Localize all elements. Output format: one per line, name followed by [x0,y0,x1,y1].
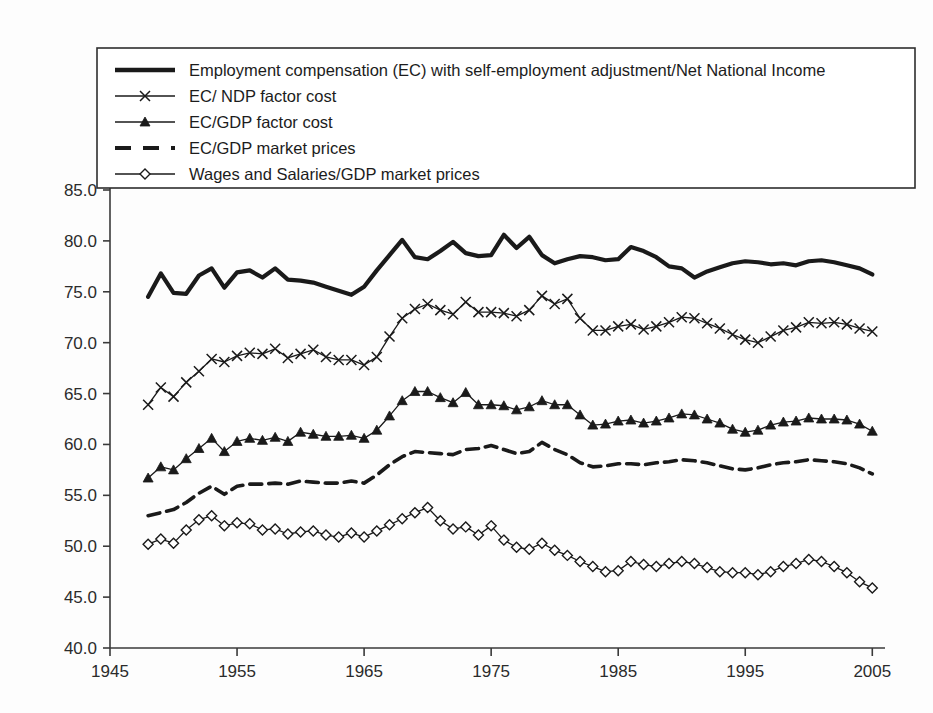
marker-triangle [194,444,204,453]
legend-entry-label: Employment compensation (EC) with self-e… [189,61,825,79]
series-line [148,442,872,515]
marker-x [651,321,661,331]
marker-diamond [283,529,293,539]
marker-diamond [308,526,318,536]
marker-diamond [473,530,483,540]
marker-x [143,400,153,410]
marker-diamond [702,563,712,573]
marker-x [639,324,649,334]
marker-diamond [651,562,661,572]
marker-diamond [766,567,776,577]
marker-x [575,313,585,323]
marker-triangle [753,425,763,434]
marker-x [550,299,560,309]
marker-diamond [867,583,877,593]
marker-diamond [461,522,471,532]
series-2 [143,387,877,483]
marker-triangle [207,433,217,442]
marker-x [169,392,179,402]
marker-x [270,344,280,354]
marker-diamond [346,528,356,538]
y-axis: 40.045.050.055.060.065.070.075.080.085.0 [64,181,110,658]
marker-diamond [626,556,636,566]
series-line [148,296,872,405]
series-0 [148,235,872,297]
marker-diamond [397,514,407,524]
marker-triangle [397,396,407,405]
marker-x [410,304,420,314]
x-tick-label: 1995 [726,662,764,681]
marker-triangle [346,430,356,439]
marker-x [296,349,306,359]
marker-diamond [842,568,852,578]
marker-x [181,377,191,387]
x-tick-label: 2005 [853,662,891,681]
marker-diamond [156,534,166,544]
marker-diamond [791,559,801,569]
marker-x [715,323,725,333]
marker-x [321,352,331,362]
marker-triangle [677,409,687,418]
marker-diamond [753,570,763,580]
marker-diamond [728,568,738,578]
y-tick-label: 65.0 [64,385,97,404]
marker-diamond [524,544,534,554]
x-tick-label: 1955 [218,662,256,681]
marker-diamond [804,554,814,564]
marker-triangle [448,398,458,407]
y-tick-label: 70.0 [64,334,97,353]
marker-diamond [385,520,395,530]
y-tick-label: 85.0 [64,181,97,200]
marker-x [448,309,458,319]
marker-diamond [715,567,725,577]
marker-x [664,317,674,327]
marker-diamond [689,559,699,569]
marker-triangle [181,454,191,463]
marker-x [435,305,445,315]
marker-diamond [448,524,458,534]
marker-diamond [855,577,865,587]
marker-x [359,360,369,370]
x-tick-label: 1945 [91,662,129,681]
marker-diamond [816,556,826,566]
marker-triangle [804,413,814,422]
y-tick-label: 40.0 [64,639,97,658]
marker-triangle [270,432,280,441]
y-tick-label: 75.0 [64,283,97,302]
marker-diamond [639,560,649,570]
marker-triangle [245,433,255,442]
y-tick-label: 60.0 [64,435,97,454]
data-series-group [143,235,877,593]
marker-x [372,352,382,362]
marker-diamond [245,519,255,529]
y-tick-label: 55.0 [64,486,97,505]
marker-x [512,311,522,321]
marker-triangle [435,393,445,402]
marker-x [791,322,801,332]
marker-diamond [613,566,623,576]
x-axis: 1945195519651975198519952005 [91,648,891,681]
marker-triangle [867,426,877,435]
marker-x [461,297,471,307]
marker-x [766,332,776,342]
chart-legend: Employment compensation (EC) with self-e… [97,48,915,188]
marker-triangle [575,410,585,419]
marker-diamond [677,556,687,566]
marker-x [778,325,788,335]
y-tick-label: 50.0 [64,537,97,556]
marker-x [194,366,204,376]
marker-x [537,291,547,301]
marker-x [308,345,318,355]
marker-diamond [296,527,306,537]
marker-diamond [410,508,420,518]
marker-diamond [588,562,598,572]
marker-x [728,330,738,340]
x-tick-label: 1965 [345,662,383,681]
series-4 [143,503,877,593]
series-3 [148,442,872,515]
y-tick-label: 45.0 [64,588,97,607]
marker-diamond [143,539,153,549]
marker-x [702,318,712,328]
marker-diamond [537,538,547,548]
marker-diamond [270,524,280,534]
